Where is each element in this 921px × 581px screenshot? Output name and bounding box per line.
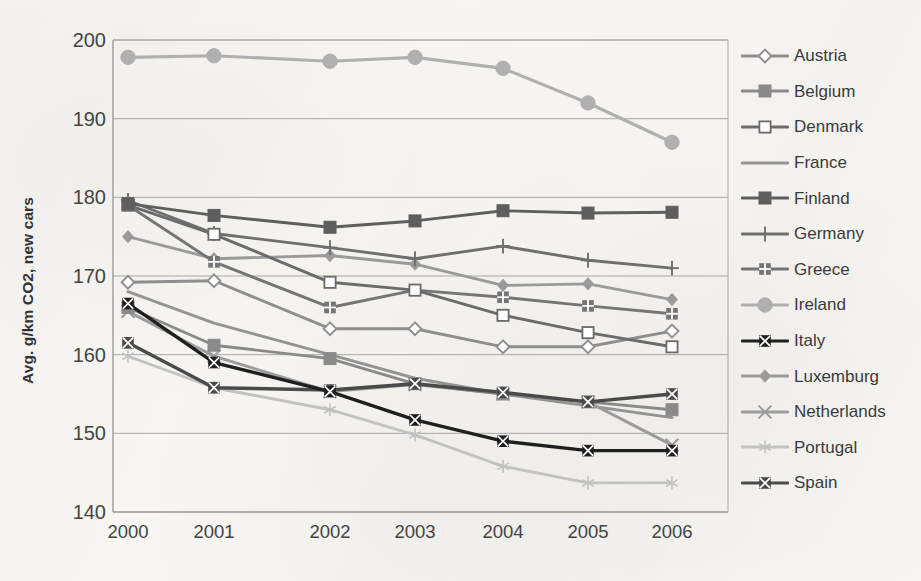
series-finland xyxy=(122,198,678,234)
legend-label-greece: Greece xyxy=(794,261,850,278)
series-point-greece-2002 xyxy=(324,302,336,314)
series-point-finland-2002 xyxy=(324,221,336,233)
series-point-germany-2004 xyxy=(496,239,510,254)
series-point-italy-2005 xyxy=(582,445,594,457)
legend-marker-none-icon xyxy=(752,153,778,173)
series-point-austria-2003 xyxy=(409,322,422,335)
legend-key-greece xyxy=(741,260,789,278)
series-point-ireland-2001 xyxy=(207,49,221,63)
series-point-finland-2004 xyxy=(497,205,509,217)
series-point-italy-2000 xyxy=(122,298,134,310)
series-point-greece-2006 xyxy=(666,308,678,320)
legend-key-ireland xyxy=(741,296,789,314)
series-point-greece-2001 xyxy=(208,256,220,268)
legend-key-germany xyxy=(741,225,789,243)
series-point-luxemburg-2006 xyxy=(667,294,677,305)
series-point-austria-2005 xyxy=(582,340,595,353)
legend-label-spain: Spain xyxy=(794,474,837,491)
series-point-ireland-2003 xyxy=(408,50,422,64)
co2-line-chart: Avg. g/km CO2, new cars 1401501601701801… xyxy=(0,0,921,581)
legend-item-greece[interactable]: Greece xyxy=(741,252,917,288)
legend-marker-glyph xyxy=(759,405,772,418)
legend-marker-glyph xyxy=(759,441,770,454)
legend-label-denmark: Denmark xyxy=(794,118,863,135)
legend-marker-big-circle-icon xyxy=(752,295,778,315)
legend-item-ireland[interactable]: Ireland xyxy=(741,287,917,323)
legend-marker-crossed-square-icon xyxy=(752,473,778,493)
legend-key-spain xyxy=(741,474,789,492)
series-point-ireland-2000 xyxy=(121,50,135,64)
legend-item-denmark[interactable]: Denmark xyxy=(741,109,917,145)
legend-item-germany[interactable]: Germany xyxy=(741,216,917,252)
legend-label-france: France xyxy=(794,154,847,171)
series-point-spain-2004 xyxy=(497,387,509,399)
series-point-greece-2005 xyxy=(582,300,594,312)
legend-marker-glyph xyxy=(759,335,771,347)
legend-marker-glyph xyxy=(759,85,771,97)
series-point-ireland-2002 xyxy=(323,54,337,68)
legend-label-luxemburg: Luxemburg xyxy=(794,368,879,385)
legend-key-netherlands xyxy=(741,403,789,421)
legend-label-germany: Germany xyxy=(794,225,864,242)
series-point-ireland-2004 xyxy=(496,61,510,75)
series-point-finland-2003 xyxy=(409,215,421,227)
legend-marker-plus-icon xyxy=(752,224,778,244)
legend-item-italy[interactable]: Italy xyxy=(741,323,917,359)
legend-marker-x-cross-icon xyxy=(752,402,778,422)
series-point-italy-2001 xyxy=(208,357,220,369)
legend-key-belgium xyxy=(741,82,789,100)
legend-key-finland xyxy=(741,189,789,207)
series-point-belgium-2001 xyxy=(208,339,220,351)
series-point-finland-2000 xyxy=(122,198,134,210)
legend-marker-glyph xyxy=(759,192,771,204)
series-point-denmark-2004 xyxy=(497,310,508,321)
series-point-austria-2004 xyxy=(497,340,510,353)
series-point-denmark-2002 xyxy=(324,277,335,288)
legend-item-netherlands[interactable]: Netherlands xyxy=(741,394,917,430)
legend-item-spain[interactable]: Spain xyxy=(741,465,917,501)
series-point-finland-2006 xyxy=(666,206,678,218)
series-point-belgium-2002 xyxy=(324,353,336,365)
legend-marker-glyph xyxy=(758,298,772,312)
series-point-italy-2002 xyxy=(324,386,336,398)
series-point-italy-2004 xyxy=(497,435,509,447)
legend-marker-glyph xyxy=(759,49,772,62)
legend-item-luxemburg[interactable]: Luxemburg xyxy=(741,358,917,394)
legend-item-finland[interactable]: Finland xyxy=(741,180,917,216)
legend-label-finland: Finland xyxy=(794,190,850,207)
legend-marker-filled-square-icon xyxy=(752,81,778,101)
legend-label-portugal: Portugal xyxy=(794,439,857,456)
series-point-denmark-2006 xyxy=(666,341,677,352)
legend-marker-glyph xyxy=(759,477,771,489)
series-point-luxemburg-2004 xyxy=(498,280,508,291)
legend-key-italy xyxy=(741,332,789,350)
series-point-finland-2005 xyxy=(582,207,594,219)
series-point-germany-2005 xyxy=(581,253,595,268)
legend-marker-open-diamond-icon xyxy=(752,46,778,66)
series-point-germany-2002 xyxy=(323,240,337,255)
legend-item-france[interactable]: France xyxy=(741,145,917,181)
gridlines xyxy=(113,40,728,512)
series-point-belgium-2006 xyxy=(666,404,678,416)
legend-marker-small-diamond-icon xyxy=(752,366,778,386)
legend-marker-glyph xyxy=(758,226,772,241)
legend-item-austria[interactable]: Austria xyxy=(741,38,917,74)
series-point-austria-2000 xyxy=(122,276,135,289)
series-point-ireland-2006 xyxy=(665,135,679,149)
legend-marker-checker-square-icon xyxy=(752,259,778,279)
legend-key-austria xyxy=(741,47,789,65)
series-ireland xyxy=(121,49,679,150)
legend-item-belgium[interactable]: Belgium xyxy=(741,74,917,110)
series-point-spain-2005 xyxy=(582,396,594,408)
legend-marker-crossed-square-icon xyxy=(752,331,778,351)
chart-legend: AustriaBelgiumDenmarkFranceFinlandGerman… xyxy=(741,38,917,501)
series-line-italy xyxy=(128,304,672,451)
series-point-spain-2000 xyxy=(122,337,134,349)
series-point-denmark-2005 xyxy=(582,327,593,338)
legend-key-luxemburg xyxy=(741,367,789,385)
legend-marker-asterisk-icon xyxy=(752,437,778,457)
series-point-greece-2004 xyxy=(497,291,509,303)
legend-marker-filled-square-icon xyxy=(752,188,778,208)
series-point-spain-2001 xyxy=(208,382,220,394)
legend-item-portugal[interactable]: Portugal xyxy=(741,430,917,466)
